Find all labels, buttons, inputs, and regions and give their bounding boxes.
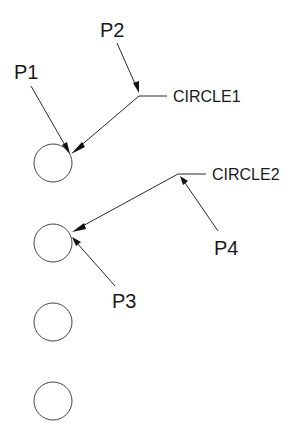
arrowhead-icon [71, 142, 85, 154]
leader-label-circle1: CIRCLE1 [173, 88, 241, 105]
point-label-p2: P2 [100, 19, 124, 41]
arrowhead-icon [62, 142, 70, 154]
arrowhead-icon [72, 237, 81, 246]
circle-3 [34, 303, 72, 341]
leader-label-circle2: CIRCLE2 [212, 166, 280, 183]
point-label-p1: P1 [14, 61, 38, 83]
arrowhead-icon [133, 81, 139, 93]
pick-arrow-p4 [180, 176, 218, 231]
arrowhead-icon [72, 223, 86, 232]
pick-arrow-p3 [72, 237, 115, 286]
pick-arrow-p2 [117, 43, 139, 93]
circle-2 [34, 224, 72, 262]
drawing-canvas: CIRCLE1 P2 P1 CIRCLE2 P4 P3 [0, 0, 305, 444]
arrowhead-icon [180, 176, 188, 185]
point-label-p4: P4 [214, 237, 238, 259]
point-label-p3: P3 [112, 290, 136, 312]
leader-circle1 [71, 96, 167, 154]
leader-circle2 [72, 174, 206, 232]
circle-4 [34, 382, 72, 420]
